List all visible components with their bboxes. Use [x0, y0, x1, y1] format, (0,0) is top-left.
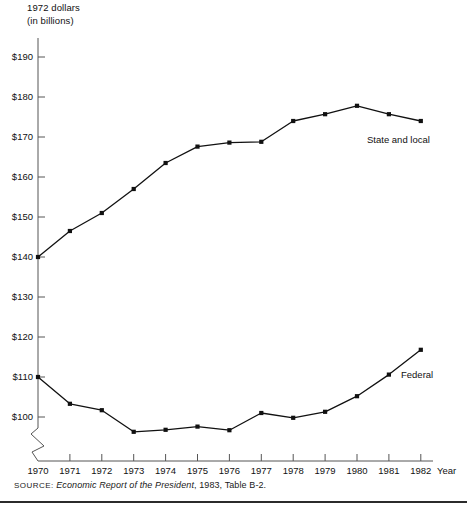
x-axis-tick-label: 1979	[315, 465, 336, 476]
data-point-marker	[227, 141, 231, 145]
data-point-marker	[227, 428, 231, 432]
x-axis-tick-label: 1972	[91, 465, 112, 476]
y-axis-tick-label: $180	[12, 91, 33, 102]
x-axis-tick-label: 1974	[155, 465, 176, 476]
y-axis-tick-label: $150	[12, 211, 33, 222]
x-axis-tick-label: 1978	[283, 465, 304, 476]
data-point-marker	[259, 140, 263, 144]
data-point-marker	[68, 402, 72, 406]
data-point-marker	[259, 411, 263, 415]
data-point-marker	[68, 229, 72, 233]
source-note: SOURCE: Economic Report of the President…	[14, 480, 266, 490]
x-axis-tick-label: 1975	[187, 465, 208, 476]
chart-figure: 1972 dollars (in billions) $100$110$120$…	[0, 0, 467, 507]
x-axis-tick-label: 1980	[346, 465, 367, 476]
data-point-marker	[164, 428, 168, 432]
data-point-marker	[132, 430, 136, 434]
series-line-0	[38, 106, 421, 257]
chart-plot-area: $100$110$120$130$140$150$160$170$180$190…	[0, 0, 467, 480]
data-point-marker	[164, 161, 168, 165]
data-point-marker	[355, 394, 359, 398]
data-point-marker	[291, 119, 295, 123]
source-keyword: SOURCE:	[14, 481, 54, 490]
data-point-marker	[36, 375, 40, 379]
x-axis-tick-label: 1973	[123, 465, 144, 476]
y-axis-tick-label: $190	[12, 51, 33, 62]
data-point-marker	[387, 373, 391, 377]
series-line-1	[38, 350, 421, 432]
data-point-marker	[195, 425, 199, 429]
y-axis-tick-label: $130	[12, 291, 33, 302]
data-point-marker	[291, 416, 295, 420]
data-point-marker	[419, 348, 423, 352]
x-axis-tick-label: 1977	[251, 465, 272, 476]
data-point-marker	[355, 104, 359, 108]
y-axis-tick-label: $110	[13, 371, 33, 382]
source-publication: Economic Report of the President	[56, 480, 194, 490]
y-axis-tick-label: $170	[12, 131, 33, 142]
data-point-marker	[100, 211, 104, 215]
x-axis-tick-label: 1981	[378, 465, 399, 476]
data-point-marker	[387, 112, 391, 116]
data-point-marker	[419, 119, 423, 123]
data-point-marker	[323, 112, 327, 116]
x-axis-tick-label: 1982	[410, 465, 431, 476]
y-axis-break-icon	[31, 428, 44, 461]
y-axis-tick-label: $140	[12, 251, 33, 262]
x-axis-tick-label: 1970	[27, 465, 48, 476]
series-label-state-and-local: State and local	[367, 134, 430, 145]
series-label-federal: Federal	[401, 369, 433, 380]
data-point-marker	[100, 408, 104, 412]
y-axis-tick-label: $160	[12, 171, 33, 182]
y-axis-tick-label: $100	[12, 411, 33, 422]
x-axis-tick-label: 1971	[59, 465, 80, 476]
source-citation: , 1983, Table B-2.	[194, 480, 266, 490]
y-axis-tick-label: $120	[12, 331, 33, 342]
data-point-marker	[323, 410, 327, 414]
data-point-marker	[36, 255, 40, 259]
bottom-divider	[0, 501, 467, 503]
x-axis-title: Year	[437, 465, 456, 476]
data-point-marker	[132, 187, 136, 191]
data-point-marker	[195, 145, 199, 149]
x-axis-tick-label: 1976	[219, 465, 240, 476]
